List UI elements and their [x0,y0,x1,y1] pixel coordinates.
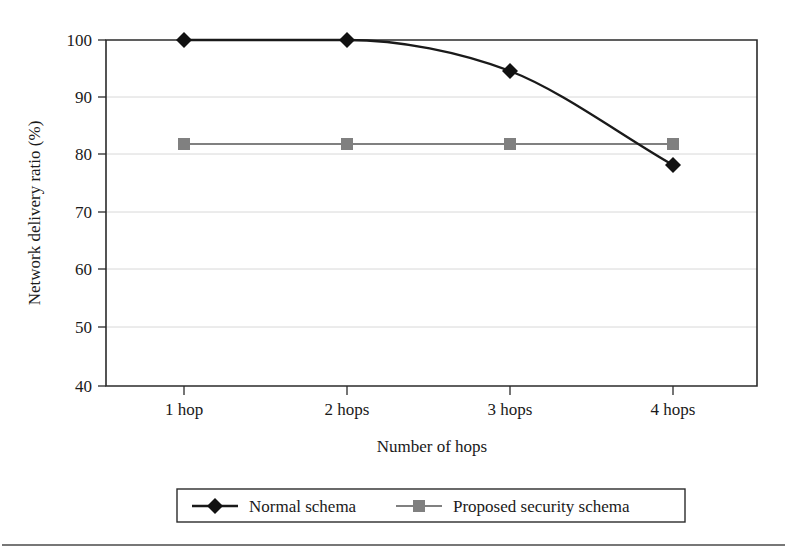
y-tick-label-60: 60 [75,260,92,279]
marker-proposed-1hop [178,138,190,150]
chart-background [0,0,787,556]
legend-label-proposed-security-schema: Proposed security schema [453,497,630,516]
x-tick-label-3-hops: 3 hops [488,400,533,419]
x-axis-title: Number of hops [377,437,487,456]
marker-proposed-4hops [667,138,679,150]
x-tick-label-1-hop: 1 hop [165,400,203,419]
x-tick-label-2-hops: 2 hops [325,400,370,419]
y-axis-title: Network delivery ratio (%) [25,121,44,306]
y-tick-label-100: 100 [67,31,93,50]
y-tick-label-50: 50 [75,318,92,337]
marker-proposed-3hops [504,138,516,150]
legend-marker-square-icon [413,500,425,512]
y-tick-label-40: 40 [75,377,92,396]
figure-container: 100 90 80 70 60 50 40 1 hop 2 hops 3 hop… [0,0,787,556]
y-tick-label-70: 70 [75,203,92,222]
line-chart: 100 90 80 70 60 50 40 1 hop 2 hops 3 hop… [0,0,787,556]
y-tick-label-80: 80 [75,145,92,164]
chart-legend: Normal schema Proposed security schema [177,489,685,522]
marker-proposed-2hops [341,138,353,150]
y-tick-label-90: 90 [75,88,92,107]
legend-label-normal-schema: Normal schema [249,497,357,516]
x-tick-label-4-hops: 4 hops [651,400,696,419]
